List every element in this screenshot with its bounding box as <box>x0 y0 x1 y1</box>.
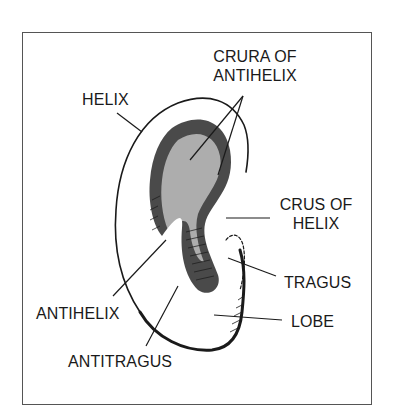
leader-helix <box>117 113 142 132</box>
leader-tragus <box>228 258 276 276</box>
label-crus-of-helix: CRUS OF HELIX <box>272 195 360 233</box>
label-antitragus: ANTITRAGUS <box>68 352 172 371</box>
label-lobe: LOBE <box>291 312 334 331</box>
label-crura-of-antihelix: CRURA OF ANTIHELIX <box>203 47 307 85</box>
label-tragus: TRAGUS <box>284 273 351 292</box>
label-crus-line2: HELIX <box>272 214 360 233</box>
label-crus-line1: CRUS OF <box>272 195 360 214</box>
label-antihelix: ANTIHELIX <box>36 304 120 323</box>
label-helix: HELIX <box>82 90 129 109</box>
label-crura-line2: ANTIHELIX <box>203 66 307 85</box>
label-crura-line1: CRURA OF <box>203 47 307 66</box>
leader-lobe <box>214 315 282 320</box>
